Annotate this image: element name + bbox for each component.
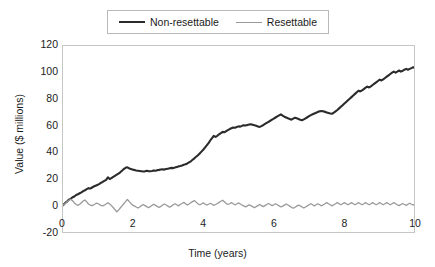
legend-entry-non-resettable[interactable]: Non-resettable bbox=[119, 17, 219, 28]
series-line bbox=[62, 67, 415, 206]
y-tick-label: 100 bbox=[24, 66, 58, 77]
y-tick-label: 60 bbox=[24, 120, 58, 131]
series-lines bbox=[62, 45, 415, 233]
legend-label-non-resettable: Non-resettable bbox=[150, 17, 219, 28]
x-tick-label: 0 bbox=[47, 218, 77, 229]
chart-legend: Non-resettable Resettable bbox=[107, 10, 329, 34]
y-tick-label: 120 bbox=[24, 39, 58, 50]
y-tick-label: 0 bbox=[24, 200, 58, 211]
y-tick-label: 40 bbox=[24, 146, 58, 157]
x-tick-label: 6 bbox=[259, 218, 289, 229]
x-axis-ticks: 0246810 bbox=[0, 218, 435, 232]
x-tick-label: 4 bbox=[188, 218, 218, 229]
x-tick-label: 10 bbox=[400, 218, 430, 229]
y-tick-label: 20 bbox=[24, 173, 58, 184]
plot-area bbox=[62, 45, 415, 233]
y-tick-label: 80 bbox=[24, 93, 58, 104]
legend-line-swatch-icon bbox=[236, 22, 262, 23]
series-line bbox=[62, 199, 415, 212]
legend-line-swatch-icon bbox=[119, 21, 145, 23]
chart-figure: Non-resettable Resettable 12010080604020… bbox=[0, 0, 435, 267]
legend-label-resettable: Resettable bbox=[267, 17, 317, 28]
x-tick-label: 8 bbox=[329, 218, 359, 229]
y-axis-label: Value ($ millions) bbox=[13, 64, 25, 204]
x-tick-label: 2 bbox=[118, 218, 148, 229]
legend-entry-resettable[interactable]: Resettable bbox=[236, 17, 317, 28]
x-axis-label: Time (years) bbox=[0, 247, 435, 259]
